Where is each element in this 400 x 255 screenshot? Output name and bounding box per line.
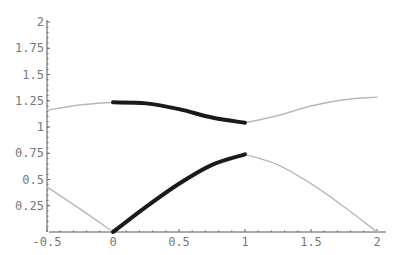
extended-zone-curve xyxy=(47,102,113,110)
reduced-zone-curve xyxy=(113,102,245,122)
extended-zone-curve xyxy=(245,154,377,232)
y-tick-label: 1.5 xyxy=(22,68,44,82)
y-tick-label: 1.75 xyxy=(15,41,44,55)
curves xyxy=(47,97,377,232)
x-tick-label: 2 xyxy=(373,235,380,249)
x-tick-label: 0 xyxy=(109,235,116,249)
x-tick-label: 1 xyxy=(241,235,248,249)
y-tick-label: 1 xyxy=(37,120,44,134)
tick-marks xyxy=(47,22,377,232)
x-tick-label: 1.5 xyxy=(300,235,322,249)
extended-zone-curve xyxy=(245,97,377,123)
x-tick-label: -0.5 xyxy=(33,235,62,249)
reduced-zone-curve xyxy=(113,154,245,232)
band-chart: -0.500.511.520.250.50.7511.251.51.752 xyxy=(0,0,400,255)
tick-labels: -0.500.511.520.250.50.7511.251.51.752 xyxy=(15,15,381,249)
extended-zone-curve xyxy=(47,187,113,232)
x-tick-label: 0.5 xyxy=(168,235,190,249)
y-tick-label: 0.5 xyxy=(22,173,44,187)
y-tick-label: 0.25 xyxy=(15,199,44,213)
y-tick-label: 0.75 xyxy=(15,146,44,160)
y-tick-label: 2 xyxy=(37,15,44,29)
y-tick-label: 1.25 xyxy=(15,94,44,108)
